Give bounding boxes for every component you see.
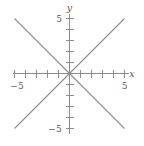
y-tick-label-positive-5: 5 bbox=[56, 14, 62, 24]
y-axis-label: y bbox=[66, 2, 73, 13]
y-tick-label-negative-5: −5 bbox=[48, 124, 62, 134]
plot-canvas: x y −5 5 5 −5 bbox=[0, 0, 144, 146]
x-axis-label: x bbox=[129, 68, 135, 79]
x-tick-label-negative-5: −5 bbox=[10, 81, 24, 91]
x-tick-label-positive-5: 5 bbox=[122, 81, 128, 91]
plot-figure: x y −5 5 5 −5 bbox=[0, 0, 144, 146]
